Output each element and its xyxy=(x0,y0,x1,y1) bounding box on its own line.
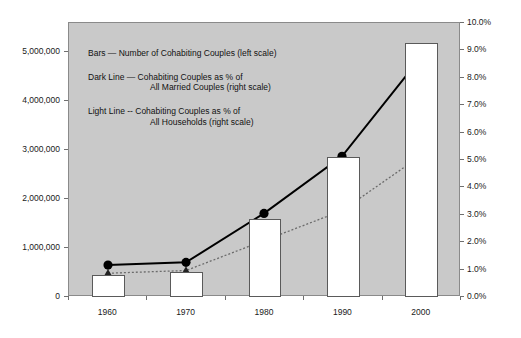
right-axis-tick xyxy=(460,214,464,215)
marker-dark-1970 xyxy=(181,258,190,267)
right-axis-tick-label: 7.0% xyxy=(467,100,486,109)
cohabiting-couples-chart: 01,000,0002,000,0003,000,0004,000,0005,0… xyxy=(0,0,521,338)
right-axis-tick-label: 6.0% xyxy=(467,127,486,136)
bar-1980 xyxy=(249,219,282,297)
x-axis-tick xyxy=(68,296,69,300)
right-axis-tick-label: 4.0% xyxy=(467,182,486,191)
bar-2000 xyxy=(405,43,438,297)
right-axis-tick xyxy=(460,104,464,105)
bar-1990 xyxy=(327,157,360,297)
legend-dark-line-label-line1: Dark Line — Cohabiting Couples as % of xyxy=(88,72,243,82)
right-axis-tick-label: 9.0% xyxy=(467,45,486,54)
left-axis-tick-label: 0 xyxy=(0,292,60,301)
left-axis-tick-label: 1,000,000 xyxy=(0,243,60,252)
right-axis-tick-label: 0.0% xyxy=(467,292,486,301)
marker-dark-1960 xyxy=(103,261,112,270)
right-axis-tick xyxy=(460,77,464,78)
right-axis-tick xyxy=(460,241,464,242)
x-axis-tick xyxy=(460,296,461,300)
left-axis-tick-label: 4,000,000 xyxy=(0,96,60,105)
x-axis-tick-label: 1980 xyxy=(255,308,274,317)
legend-dark-line-label-line2: All Married Couples (right scale) xyxy=(88,82,348,93)
legend-bars-label: Bars — Number of Cohabiting Couples (lef… xyxy=(88,48,277,58)
left-axis-tick-label: 2,000,000 xyxy=(0,194,60,203)
right-axis-tick xyxy=(460,132,464,133)
x-axis-tick-label: 2000 xyxy=(411,308,430,317)
right-axis-tick xyxy=(460,159,464,160)
legend-light-line-label-line2: All Households (right scale) xyxy=(88,117,348,128)
x-axis-tick xyxy=(146,296,147,300)
right-axis-tick xyxy=(460,49,464,50)
right-axis-tick-label: 1.0% xyxy=(467,264,486,273)
x-axis-tick-label: 1960 xyxy=(98,308,117,317)
right-axis-tick xyxy=(460,269,464,270)
bar-1960 xyxy=(92,275,125,297)
right-axis-tick-label: 8.0% xyxy=(467,73,486,82)
left-axis-tick-label: 5,000,000 xyxy=(0,47,60,56)
right-axis-tick-label: 3.0% xyxy=(467,210,486,219)
legend-entry-dark-line: Dark Line — Cohabiting Couples as % of A… xyxy=(88,72,348,93)
x-axis-tick xyxy=(225,296,226,300)
x-axis-tick-label: 1970 xyxy=(176,308,195,317)
chart-legend: Bars — Number of Cohabiting Couples (lef… xyxy=(88,48,348,140)
right-axis-tick-label: 10.0% xyxy=(467,18,491,27)
bar-1970 xyxy=(170,272,203,297)
marker-dark-1980 xyxy=(259,209,268,218)
right-axis-tick xyxy=(460,22,464,23)
legend-entry-bars: Bars — Number of Cohabiting Couples (lef… xyxy=(88,48,348,59)
right-axis-tick xyxy=(460,186,464,187)
x-axis-tick xyxy=(303,296,304,300)
legend-light-line-label-line1: Light Line -- Cohabiting Couples as % of xyxy=(88,106,240,116)
x-axis-tick-label: 1990 xyxy=(333,308,352,317)
legend-entry-light-line: Light Line -- Cohabiting Couples as % of… xyxy=(88,106,348,127)
right-axis-tick-label: 2.0% xyxy=(467,237,486,246)
left-axis-tick-label: 3,000,000 xyxy=(0,145,60,154)
x-axis-tick xyxy=(382,296,383,300)
right-axis-tick-label: 5.0% xyxy=(467,155,486,164)
